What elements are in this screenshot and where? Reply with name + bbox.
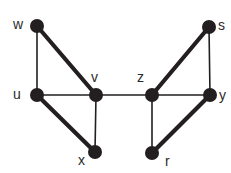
graph-figure: wsuvzyxr (0, 0, 231, 173)
graph-edge-z-s (152, 27, 209, 95)
graph-edge-r-y (152, 95, 210, 153)
vertex-label-w: w (13, 17, 23, 31)
vertex-label-v: v (91, 70, 98, 84)
graph-node-v (89, 88, 103, 102)
graph-edge-w-v (37, 26, 96, 95)
graph-node-y (203, 88, 217, 102)
node-layer (30, 19, 217, 160)
graph-edge-s-y (209, 27, 210, 95)
graph-node-s (202, 20, 216, 34)
graph-node-r (145, 146, 159, 160)
graph-edge-u-x (37, 95, 95, 152)
edge-layer (37, 26, 210, 153)
graph-edge-v-x (95, 95, 96, 152)
vertex-label-y: y (219, 88, 226, 102)
graph-node-w (30, 19, 44, 33)
vertex-label-s: s (218, 18, 225, 32)
vertex-label-x: x (78, 153, 85, 167)
vertex-label-u: u (13, 87, 21, 101)
graph-node-u (30, 88, 44, 102)
graph-node-z (145, 88, 159, 102)
graph-canvas (0, 0, 231, 173)
graph-node-x (88, 145, 102, 159)
vertex-label-z: z (137, 70, 144, 84)
vertex-label-r: r (165, 154, 170, 168)
